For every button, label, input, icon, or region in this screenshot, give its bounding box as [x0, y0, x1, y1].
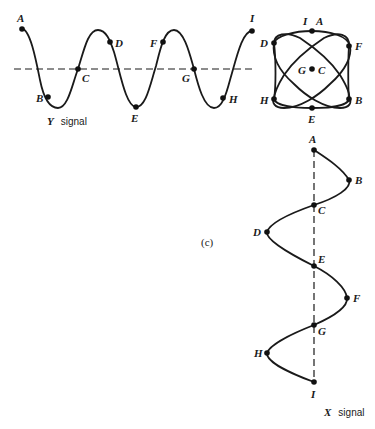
y-label-c: C — [82, 72, 90, 84]
x-signal-labels: A B C D E F G H I — [252, 133, 362, 400]
x-label-d: D — [252, 226, 261, 238]
x-signal-caption: X signal — [323, 402, 364, 419]
liss-label-e: E — [307, 113, 315, 125]
x-point-c — [311, 202, 317, 208]
lissajous-figure: A B C D E F G H I Y signal I — [0, 0, 375, 429]
x-point-d — [264, 229, 270, 235]
y-label-f: F — [149, 37, 158, 49]
x-label-h: H — [253, 347, 263, 359]
x-label-g: G — [318, 325, 326, 337]
y-label-g: G — [182, 72, 190, 84]
liss-label-c: C — [318, 64, 326, 76]
y-signal-points — [19, 26, 255, 110]
y-label-h: H — [228, 93, 238, 105]
x-point-e — [311, 263, 317, 269]
x-label-f: F — [352, 292, 361, 304]
x-label-e: E — [317, 253, 325, 265]
liss-label-g: G — [298, 64, 306, 76]
panel-label: (c) — [201, 236, 214, 249]
liss-point-e — [309, 105, 315, 111]
liss-label-h: H — [259, 94, 269, 106]
x-signal-waveform — [267, 150, 349, 382]
x-signal-points — [264, 147, 352, 385]
x-signal-plot: A B C D E F G H I X signal — [252, 133, 364, 419]
liss-point-b — [346, 96, 352, 102]
liss-point-ia — [309, 28, 315, 34]
x-point-g — [311, 322, 317, 328]
x-label-b: B — [354, 174, 362, 186]
y-point-i — [249, 28, 255, 34]
x-point-f — [344, 295, 350, 301]
y-point-f — [160, 39, 166, 45]
x-label-i: I — [310, 388, 316, 400]
y-label-d: D — [114, 37, 123, 49]
liss-point-gc — [309, 66, 315, 72]
x-point-a — [311, 147, 317, 153]
lissajous-pattern: I A D F G C H B E — [259, 15, 363, 125]
liss-point-h — [271, 96, 277, 102]
y-caption-text: signal — [61, 116, 87, 127]
liss-label-a: A — [315, 15, 323, 27]
x-point-i — [311, 379, 317, 385]
y-point-h — [220, 95, 226, 101]
x-caption-var: X — [323, 406, 332, 418]
liss-label-b: B — [354, 94, 362, 106]
x-label-c: C — [318, 204, 326, 216]
y-point-d — [107, 39, 113, 45]
liss-label-d: D — [259, 37, 268, 49]
y-label-b: B — [35, 92, 43, 104]
x-caption-text: signal — [338, 407, 364, 418]
y-point-b — [45, 94, 51, 100]
x-point-h — [264, 350, 270, 356]
y-caption-var: Y — [47, 115, 55, 127]
y-point-a — [19, 26, 25, 32]
y-signal-plot: A B C D E F G H I Y signal — [14, 12, 256, 128]
x-label-a: A — [308, 133, 316, 145]
y-point-g — [191, 66, 197, 72]
y-signal-caption: Y signal — [47, 111, 87, 128]
x-point-b — [346, 177, 352, 183]
liss-point-d — [271, 40, 277, 46]
y-point-c — [75, 66, 81, 72]
liss-label-i: I — [302, 15, 308, 27]
y-point-e — [133, 104, 139, 110]
liss-label-f: F — [354, 40, 363, 52]
liss-point-f — [346, 43, 352, 49]
y-label-e: E — [130, 112, 138, 124]
y-label-i: I — [249, 12, 255, 24]
y-label-a: A — [16, 12, 24, 24]
